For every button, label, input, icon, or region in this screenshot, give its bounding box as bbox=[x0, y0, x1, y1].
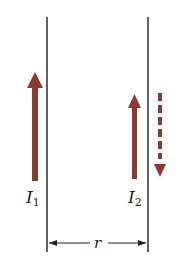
label-r: r bbox=[94, 234, 102, 252]
parallel-wires-diagram: I1 I2 r bbox=[0, 0, 178, 273]
background bbox=[0, 0, 178, 273]
